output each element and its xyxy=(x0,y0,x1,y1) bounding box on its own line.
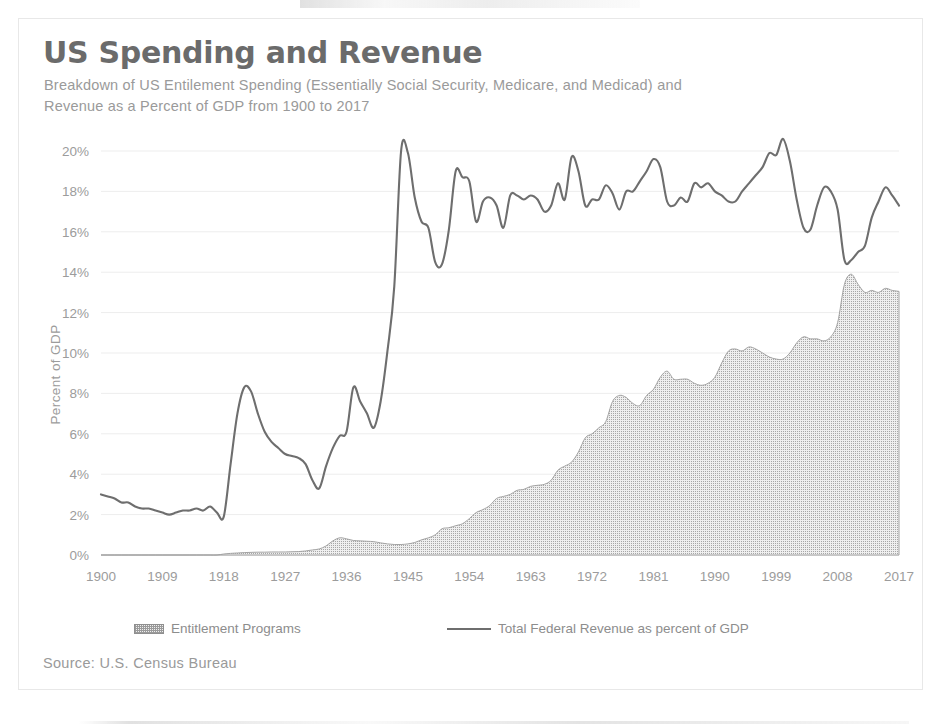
chart-legend: Entitlement Programs Total Federal Reven… xyxy=(19,617,924,647)
page-title: US Spending and Revenue xyxy=(43,35,482,70)
x-tick-label: 1999 xyxy=(761,569,791,584)
y-tick-label: 2% xyxy=(69,508,89,523)
y-tick-label: 18% xyxy=(62,184,89,199)
x-tick-label: 2017 xyxy=(884,569,914,584)
line-swatch-icon xyxy=(447,628,491,630)
x-tick-label: 1981 xyxy=(638,569,668,584)
x-tick-label: 1945 xyxy=(393,569,423,584)
y-tick-label: 16% xyxy=(62,225,89,240)
x-tick-label: 2008 xyxy=(823,569,853,584)
x-tick-label: 1900 xyxy=(86,569,116,584)
y-tick-label: 0% xyxy=(69,548,89,563)
x-tick-label: 1918 xyxy=(209,569,239,584)
x-tick-label: 1972 xyxy=(577,569,607,584)
x-tick-label: 1963 xyxy=(516,569,546,584)
y-tick-label: 14% xyxy=(62,265,89,280)
x-tick-label: 1936 xyxy=(332,569,362,584)
y-tick-label: 12% xyxy=(62,306,89,321)
plot-area: Percent of GDP 0%2%4%6%8%10%12%14%16%18%… xyxy=(19,137,924,607)
y-tick-label: 8% xyxy=(69,386,89,401)
source-caption: Source: U.S. Census Bureau xyxy=(43,655,237,671)
legend-label-entitlement-programs: Entitlement Programs xyxy=(171,621,301,636)
y-tick-label: 10% xyxy=(62,346,89,361)
legend-item-total-federal-revenue[interactable]: Total Federal Revenue as percent of GDP xyxy=(447,621,749,636)
chart-canvas: 0%2%4%6%8%10%12%14%16%18%20%190019091918… xyxy=(19,137,924,607)
series-area-entitlement-programs xyxy=(101,274,899,555)
x-tick-label: 1927 xyxy=(270,569,300,584)
chart-subtitle: Breakdown of US Entilement Spending (Ess… xyxy=(44,75,744,117)
scan-artifact-bottom xyxy=(79,721,909,724)
legend-label-total-federal-revenue: Total Federal Revenue as percent of GDP xyxy=(498,621,749,636)
scan-artifact-top xyxy=(300,0,640,8)
x-tick-label: 1990 xyxy=(700,569,730,584)
x-tick-label: 1954 xyxy=(454,569,485,584)
chart-figure: US Spending and Revenue Breakdown of US … xyxy=(18,18,923,690)
hatched-area-swatch-icon xyxy=(134,624,164,634)
y-tick-label: 4% xyxy=(69,467,89,482)
y-tick-label: 6% xyxy=(69,427,89,442)
y-tick-label: 20% xyxy=(62,144,89,159)
x-tick-label: 1909 xyxy=(147,569,177,584)
legend-item-entitlement-programs[interactable]: Entitlement Programs xyxy=(134,621,301,636)
